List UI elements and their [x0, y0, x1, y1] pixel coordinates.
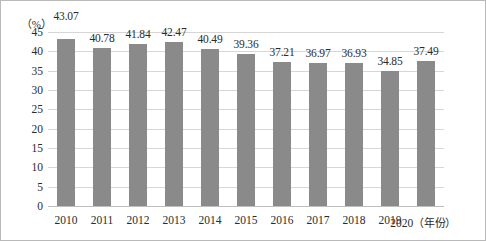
bar[interactable]	[165, 42, 183, 206]
bar[interactable]	[381, 71, 399, 206]
y-axis-tick-label: 20	[32, 123, 44, 135]
bar-value-label: 34.85	[378, 55, 403, 67]
bar[interactable]	[57, 39, 75, 206]
y-axis-tick-label: 25	[32, 103, 44, 115]
bar-value-label: 36.97	[306, 47, 331, 59]
bar-value-label: 39.36	[234, 38, 259, 50]
bar-value-label: 37.49	[414, 45, 439, 57]
bar-value-label: 41.84	[126, 28, 151, 40]
x-axis-tick-label: 2012	[127, 214, 150, 226]
gridline	[48, 206, 444, 207]
bar-value-label: 40.78	[90, 32, 115, 44]
bar-slot: 36.972017	[300, 32, 336, 206]
x-axis-tick-label: 2015	[235, 214, 258, 226]
x-axis-unit-label: （年份）	[413, 217, 456, 229]
bar-value-label: 42.47	[162, 26, 187, 38]
bar[interactable]	[273, 62, 291, 206]
y-axis-tick-label: 30	[32, 84, 44, 96]
bar-value-label: 37.21	[270, 46, 295, 58]
bar[interactable]	[237, 54, 255, 206]
x-axis-tick-label: 2020（年份）	[390, 214, 456, 230]
bar[interactable]	[345, 63, 363, 206]
x-axis-tick-label: 2010	[55, 214, 78, 226]
bar-slot: 42.472013	[156, 32, 192, 206]
bar-slot: 40.782011	[84, 32, 120, 206]
bar[interactable]	[201, 49, 219, 206]
y-axis-tick-label: 15	[32, 142, 44, 154]
bar-slot: 43.072010	[48, 32, 84, 206]
x-axis-tick-label: 2016	[271, 214, 294, 226]
bar-slot: 41.842012	[120, 32, 156, 206]
bar-value-label: 43.07	[54, 10, 79, 22]
y-axis-tick-label: 35	[32, 65, 44, 77]
bar-slot: 37.212016	[264, 32, 300, 206]
y-axis-tick-label: 0	[37, 200, 43, 212]
bar-slot: 37.492020（年份）	[408, 32, 444, 206]
plot-area: 051015202530354045 43.07201040.78201141.…	[48, 32, 444, 206]
y-axis-tick-label: 10	[32, 161, 44, 173]
bar-slot: 34.852019	[372, 32, 408, 206]
bar[interactable]	[93, 48, 111, 206]
bar[interactable]	[309, 63, 327, 206]
x-axis-tick-label: 2011	[91, 214, 114, 226]
bar[interactable]	[129, 44, 147, 206]
bar-chart-figure: （%） 051015202530354045 43.07201040.78201…	[0, 0, 486, 241]
bar-slot: 36.932018	[336, 32, 372, 206]
bar-value-label: 40.49	[198, 33, 223, 45]
y-axis-tick-label: 40	[32, 45, 44, 57]
bar[interactable]	[417, 61, 435, 206]
bar-slot: 39.362015	[228, 32, 264, 206]
x-axis-tick-label: 2013	[163, 214, 186, 226]
bar-value-label: 36.93	[342, 47, 367, 59]
bar-slot: 40.492014	[192, 32, 228, 206]
x-axis-tick-label: 2017	[307, 214, 330, 226]
x-axis-tick-label: 2018	[343, 214, 366, 226]
y-axis-tick-label: 5	[37, 181, 43, 193]
x-axis-tick-label: 2014	[199, 214, 222, 226]
y-axis-tick-label: 45	[32, 26, 44, 38]
